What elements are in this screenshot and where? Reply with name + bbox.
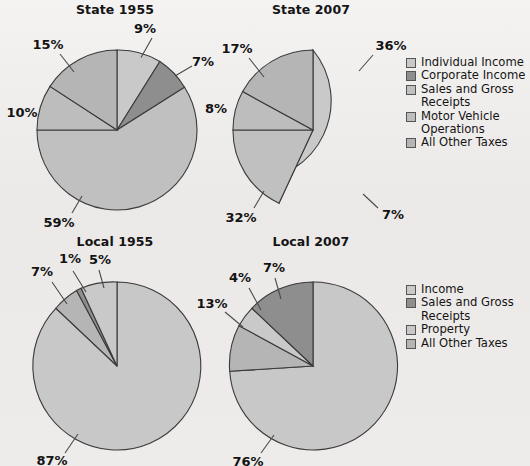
value-label-13: 13%	[196, 296, 227, 311]
legend-item-sales-gross-receipts[interactable]: Sales and Gross Receipts	[406, 83, 530, 110]
wedge-sales-gross-receipts[interactable]	[233, 130, 313, 203]
state-legend: Individual Income Corporate Income Sales…	[406, 56, 530, 150]
legend-swatch-individual-income	[406, 58, 416, 68]
legend-label-sales-gross-receipts: Sales and Gross Receipts	[421, 296, 514, 323]
legend-item-all-other-taxes[interactable]: All Other Taxes	[406, 337, 530, 350]
leader-line-36	[359, 55, 373, 71]
value-label-15: 15%	[32, 37, 63, 52]
value-label-17: 17%	[221, 41, 252, 56]
chart-title-local-2007: Local 2007	[196, 234, 426, 249]
legend-label-property: Property	[421, 323, 470, 336]
chart-state-2007: State 2007 36% 7% 32% 8% 17%	[196, 0, 426, 232]
value-label-59: 59%	[43, 215, 74, 230]
legend-label-motor-vehicle-operations: Motor Vehicle Operations	[421, 110, 500, 137]
legend-swatch-sales-gross-receipts	[406, 298, 416, 308]
legend-label-individual-income: Individual Income	[421, 56, 524, 69]
value-label-76: 76%	[232, 454, 263, 466]
chart-local-2007: Local 2007 76% 7% 4% 13%	[196, 232, 426, 466]
legend-item-corporate-income[interactable]: Corporate Income	[406, 69, 530, 82]
legend-swatch-all-other-taxes	[406, 339, 416, 349]
legend-item-property[interactable]: Property	[406, 323, 530, 336]
value-label-5: 5%	[89, 252, 111, 267]
value-label-8: 8%	[205, 101, 227, 116]
legend-label-all-other-taxes: All Other Taxes	[421, 136, 508, 149]
leader-line-13	[225, 312, 243, 327]
legend-item-sales-gross-receipts[interactable]: Sales and Gross Receipts	[406, 296, 530, 323]
legend-label-corporate-income: Corporate Income	[421, 69, 525, 82]
legend-item-income[interactable]: Income	[406, 283, 530, 296]
legend-swatch-income	[406, 285, 416, 295]
value-label-7: 7%	[263, 260, 285, 275]
value-label-7: 7%	[382, 207, 404, 222]
legend-swatch-corporate-income	[406, 71, 416, 81]
legend-swatch-motor-vehicle-operations	[406, 112, 416, 122]
value-label-7: 7%	[31, 264, 53, 279]
value-label-4: 4%	[229, 270, 251, 285]
value-label-10: 10%	[6, 105, 37, 120]
pie-svg-state-2007: 36% 7% 32% 8% 17%	[196, 0, 426, 232]
leader-line-7	[52, 282, 67, 304]
value-label-87: 87%	[36, 453, 67, 466]
legend-swatch-property	[406, 325, 416, 335]
legend-swatch-all-other-taxes	[406, 138, 416, 148]
chart-title-state-2007: State 2007	[196, 2, 426, 17]
pie-svg-local-2007: 76% 7% 4% 13%	[196, 232, 426, 466]
leader-line-7	[175, 66, 192, 76]
legend-label-sales-gross-receipts: Sales and Gross Receipts	[421, 83, 514, 110]
value-label-32: 32%	[225, 210, 256, 225]
value-label-1: 1%	[59, 251, 81, 266]
legend-label-all-other-taxes: All Other Taxes	[421, 337, 508, 350]
value-label-9: 9%	[134, 21, 156, 36]
legend-swatch-sales-gross-receipts	[406, 85, 416, 95]
leader-line-7	[363, 194, 378, 208]
legend-label-income: Income	[421, 283, 464, 296]
value-label-36: 36%	[375, 38, 406, 53]
leader-line-32	[254, 191, 264, 208]
local-legend: Income Sales and Gross Receipts Property…	[406, 283, 530, 350]
legend-item-individual-income[interactable]: Individual Income	[406, 56, 530, 69]
leader-line-76	[261, 435, 274, 453]
legend-item-all-other-taxes[interactable]: All Other Taxes	[406, 136, 530, 149]
legend-item-motor-vehicle-operations[interactable]: Motor Vehicle Operations	[406, 110, 530, 137]
